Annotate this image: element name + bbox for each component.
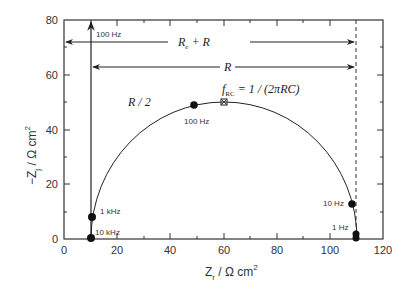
point-1hz-base (353, 235, 360, 242)
x-tick-120: 120 (374, 244, 392, 256)
point-10hz (348, 200, 356, 208)
x-tick-40: 40 (164, 244, 176, 256)
impedance-arc (91, 102, 357, 239)
point-100hz (190, 101, 198, 109)
x-tick-0: 0 (61, 244, 67, 256)
label-100hz: 100 Hz (184, 117, 209, 126)
data-points (87, 101, 360, 242)
frc-label: fRC = 1 / (2πRC) (222, 82, 299, 98)
x-axis-title: Zr / Ω cm2 (205, 263, 258, 282)
r-label: R (223, 60, 232, 74)
label-10hz: 10 Hz (323, 199, 344, 208)
nyquist-plot: 0 20 40 60 80 100 120 0 20 40 60 80 Zr /… (0, 0, 408, 294)
x-tick-20: 20 (111, 244, 123, 256)
y-tick-20: 20 (46, 178, 58, 190)
y-tick-40: 40 (46, 124, 58, 136)
y-tick-60: 60 (46, 69, 58, 81)
top-freq-label: 100 Hz (96, 30, 121, 39)
re-plus-r-label: Re + R (177, 35, 211, 51)
y-tick-80: 80 (46, 14, 58, 26)
x-tick-60: 60 (218, 244, 230, 256)
point-10khz (87, 234, 95, 242)
y-axis-title: −Zj / Ω cm2 (23, 126, 42, 185)
r-half-label: R / 2 (127, 95, 151, 109)
label-1khz: 1 kHz (100, 207, 120, 216)
x-axis-ticks (91, 20, 356, 239)
label-1hz: 1 Hz (332, 223, 348, 232)
label-10khz: 10 kHz (95, 228, 120, 237)
y-tick-0: 0 (52, 233, 58, 245)
y-tick-labels: 0 20 40 60 80 (46, 14, 58, 245)
x-tick-80: 80 (271, 244, 283, 256)
x-tick-labels: 0 20 40 60 80 100 120 (61, 244, 392, 256)
x-tick-100: 100 (321, 244, 339, 256)
point-1khz (88, 213, 96, 221)
